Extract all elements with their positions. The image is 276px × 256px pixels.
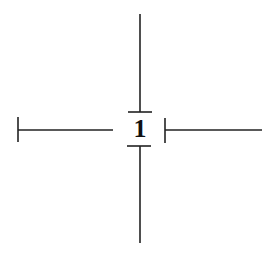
center-label: 1 [126, 114, 154, 144]
